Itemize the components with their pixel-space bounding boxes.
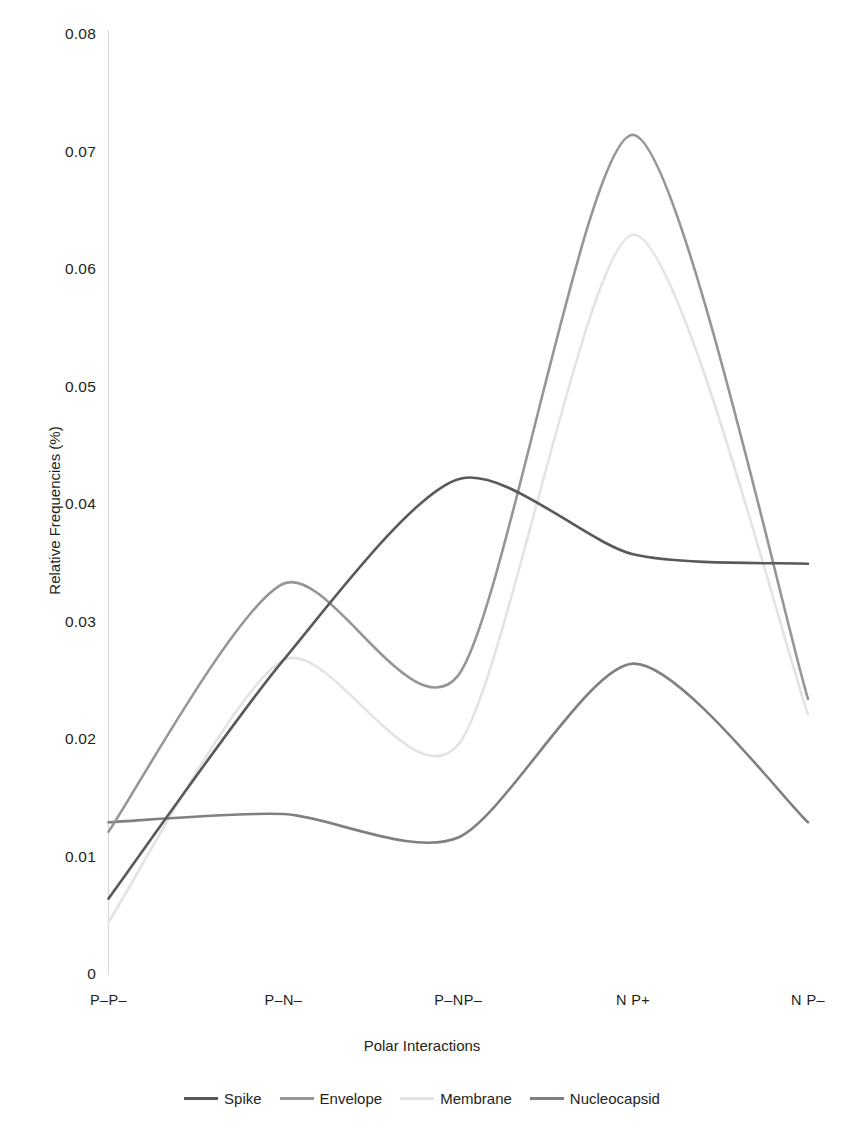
y-tick-label: 0.08 [34,25,96,43]
legend-label: Nucleocapsid [570,1090,660,1107]
y-axis-title: Relative Frequencies (%) [46,381,63,641]
legend-swatch-spike [184,1097,218,1101]
x-tick-label: P–N– [223,992,343,1008]
legend-item-membrane[interactable]: Membrane [400,1090,512,1107]
series-lines [109,135,809,922]
y-tick-label: 0 [34,965,96,983]
legend-label: Spike [224,1090,262,1107]
y-tick-label: 0.05 [34,378,96,396]
legend-item-envelope[interactable]: Envelope [280,1090,383,1107]
chart-legend: SpikeEnvelopeMembraneNucleocapsid [0,1090,844,1107]
legend-swatch-nucleocapsid [530,1097,564,1101]
series-line-spike [109,478,809,899]
legend-label: Envelope [320,1090,383,1107]
legend-swatch-envelope [280,1097,314,1101]
series-line-membrane [109,235,809,922]
y-tick-label: 0.07 [34,143,96,161]
series-line-envelope [109,135,809,832]
y-tick-label: 0.02 [34,730,96,748]
x-axis-title: Polar Interactions [0,1037,844,1054]
y-tick-label: 0.06 [34,260,96,278]
x-tick-label: P–NP– [398,992,518,1008]
legend-label: Membrane [440,1090,512,1107]
x-tick-label: N P– [748,992,844,1008]
legend-item-spike[interactable]: Spike [184,1090,262,1107]
x-tick-label: N P+ [573,992,693,1008]
plot-area [0,0,844,1144]
y-tick-label: 0.01 [34,848,96,866]
x-tick-label: P–P– [49,992,169,1008]
line-chart: 00.010.020.030.040.050.060.070.08 P–P–P–… [0,0,844,1144]
legend-item-nucleocapsid[interactable]: Nucleocapsid [530,1090,660,1107]
legend-swatch-membrane [400,1097,434,1101]
y-tick-label: 0.03 [34,613,96,631]
y-tick-label: 0.04 [34,495,96,513]
